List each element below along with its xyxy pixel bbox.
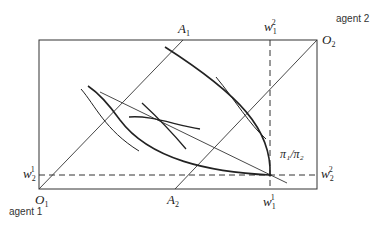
label-agent1: agent 1 xyxy=(9,207,42,217)
label-price-ratio: π₁/π₂ xyxy=(280,148,304,160)
label-w11: w11 xyxy=(263,194,275,211)
label-w22: w22 xyxy=(321,166,333,183)
label-w12: w12 xyxy=(264,19,276,36)
edgeworth-box xyxy=(39,40,317,189)
indifference-curve-agent2-mid xyxy=(142,103,186,149)
label-a2: A2 xyxy=(167,193,179,209)
o1-a1-line xyxy=(39,40,183,189)
label-agent2: agent 2 xyxy=(336,14,369,24)
label-a1: A1 xyxy=(178,22,190,38)
label-o2: O2 xyxy=(322,33,335,49)
indifference-curve-agent1-mid xyxy=(129,117,200,129)
label-w21: w21 xyxy=(23,166,35,183)
offer-curve-agent2 xyxy=(165,47,270,175)
a2-o2-line xyxy=(175,40,317,189)
indifference-curve-a xyxy=(81,89,139,151)
endowment-point xyxy=(269,174,272,177)
